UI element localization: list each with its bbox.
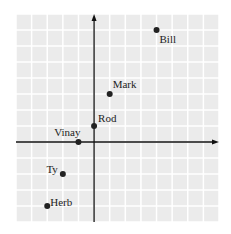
scatter-plot: BillMarkRodVinayTyHerb [0, 0, 231, 234]
grid-background [16, 14, 219, 222]
point-label: Mark [113, 78, 137, 90]
point-marker [91, 123, 97, 129]
point-marker [60, 171, 66, 177]
point-label: Vinay [54, 126, 81, 138]
point-label: Herb [50, 196, 72, 208]
point-label: Rod [98, 112, 117, 124]
point-marker [107, 91, 113, 97]
point-label: Bill [160, 33, 177, 45]
point-label: Ty [46, 163, 58, 175]
grid [16, 14, 219, 222]
point-marker [75, 139, 81, 145]
